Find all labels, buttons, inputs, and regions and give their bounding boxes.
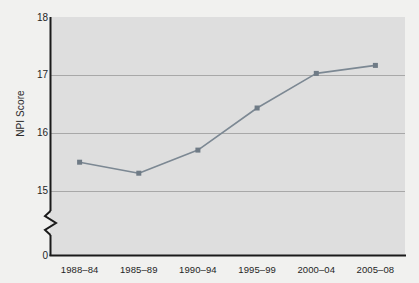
y-tick-label-18: 18: [22, 13, 48, 23]
x-tick-label-3: 1995–99: [238, 264, 276, 275]
data-point-4: [314, 71, 319, 76]
x-tick-label-0: 1988–84: [61, 264, 99, 275]
y-axis-tick-labels: 015161718: [14, 0, 48, 283]
y-tick-label-16: 16: [22, 128, 48, 138]
x-tick-label-4: 2000–04: [297, 264, 335, 275]
x-tick-label-5: 2005–08: [357, 264, 395, 275]
data-point-3: [255, 106, 260, 111]
y-tick-label-0: 0: [22, 251, 48, 261]
x-tick-label-2: 1990–94: [179, 264, 217, 275]
x-tick-label-1: 1985–89: [120, 264, 158, 275]
data-point-1: [136, 171, 141, 176]
npi-score-line-chart: [0, 0, 419, 283]
plot-area-background: [50, 17, 405, 256]
data-point-2: [195, 148, 200, 153]
data-point-0: [77, 160, 82, 165]
data-point-5: [373, 63, 378, 68]
chart-figure: NPI Score 015161718 1988–841985–891990–9…: [0, 0, 419, 283]
y-tick-label-15: 15: [22, 186, 48, 196]
x-axis-tick-labels: 1988–841985–891990–941995–992000–042005–…: [0, 262, 419, 280]
y-tick-label-17: 17: [22, 70, 48, 80]
